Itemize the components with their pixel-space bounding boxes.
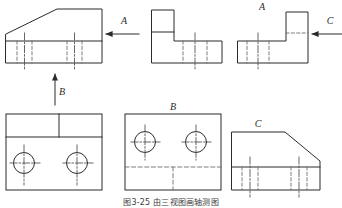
- view-c-outline: [232, 132, 320, 190]
- view-b-outline: [125, 114, 221, 190]
- front-view-hidden-lines: [17, 41, 82, 63]
- view-c-bottom-right: [232, 132, 320, 197]
- view-a-top-right: [238, 12, 308, 70]
- arrow-b-label: B: [59, 86, 65, 97]
- front-view-outline: [6, 9, 102, 63]
- arrow-c-label: C: [327, 15, 334, 26]
- view-front-top-left: [6, 9, 102, 70]
- engineering-drawing: A B C A B C: [0, 0, 342, 208]
- view-b-title: B: [170, 101, 176, 112]
- view-a-outline: [238, 12, 308, 63]
- view-b-bottom-middle: [125, 114, 221, 190]
- view-a-title: A: [258, 1, 266, 12]
- arrow-a-label: A: [120, 15, 128, 26]
- l-shape-outline: [152, 10, 222, 63]
- view-b-hidden-lines: [125, 167, 221, 190]
- view-c-center-lines: [250, 157, 299, 197]
- view-b-center-lines: [131, 125, 211, 160]
- view-c-title: C: [255, 118, 262, 129]
- top-view-outline: [6, 114, 102, 190]
- top-view-center-lines: [10, 145, 93, 185]
- view-l-shape-top-middle: [152, 10, 222, 70]
- figure-caption: 图3-25 由三视图画轴测图: [0, 198, 342, 208]
- view-a-hidden-lines: [247, 33, 308, 63]
- figure-sheet: A B C A B C 图3-25 由三视图画轴测图: [0, 0, 342, 208]
- view-c-hidden-lines: [242, 167, 307, 190]
- view-top-bottom-left: [6, 114, 102, 190]
